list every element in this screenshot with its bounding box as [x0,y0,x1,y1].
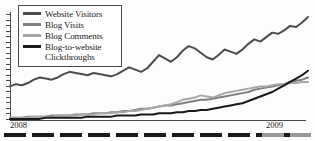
x-axis-label-2009: 2009 [266,121,283,130]
x-axis-label-2008: 2008 [10,121,27,130]
legend-item: Blog Visits [22,20,117,30]
legend-item: Website Visitors [22,9,117,19]
legend-swatch-icon [23,23,41,26]
chart-legend: Website VisitorsBlog VisitsBlog Comments… [18,5,122,67]
legend-item: Blog Comments [22,31,117,41]
legend-swatch-icon [23,45,41,48]
legend-item: Blog-to-website Clickthroughs [22,42,117,62]
legend-item-label: Blog Visits [45,20,84,30]
line-chart: Website VisitorsBlog VisitsBlog Comments… [0,0,315,141]
legend-swatch-icon [23,34,41,37]
legend-swatch-icon [23,12,41,15]
legend-item-label: Website Visitors [45,9,102,19]
legend-item-label: Blog-to-website Clickthroughs [45,42,102,62]
series-line [10,77,308,117]
bottom-dashed-rule-tail [262,133,311,137]
legend-item-label: Blog Comments [45,31,102,41]
